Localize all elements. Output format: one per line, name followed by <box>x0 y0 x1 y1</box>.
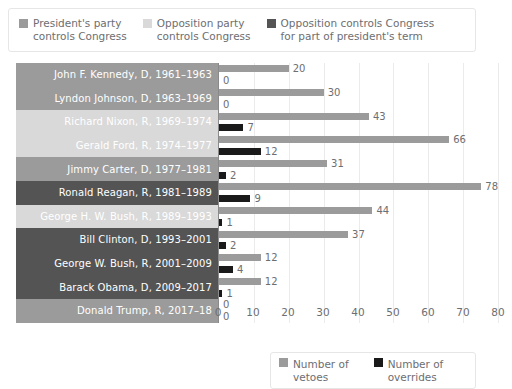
veto-bar[interactable] <box>219 278 261 285</box>
bar-group: 31 <box>219 157 498 169</box>
legend-item-label: Number of vetoes <box>293 358 362 383</box>
chart-row: George H. W. Bush, R, 1989–1993441 <box>16 205 498 229</box>
square-swatch-icon <box>374 358 383 367</box>
bar-group: 20 <box>219 63 498 75</box>
chart-row: George W. Bush, R, 2001–2009124 <box>16 252 498 276</box>
chart-row: Richard Nixon, R, 1969–1974437 <box>16 110 498 134</box>
veto-bar[interactable] <box>219 160 327 167</box>
bar-value-label: 12 <box>265 276 278 287</box>
row-plot-area: 6612 <box>218 134 498 158</box>
legend-item-label: President's party controls Congress <box>33 17 127 42</box>
congress-control-legend: President's party controls Congress Oppo… <box>8 8 476 52</box>
x-axis-tick-label: 60 <box>421 306 434 318</box>
bar-group: 7 <box>219 122 498 134</box>
row-plot-area: 200 <box>218 63 498 87</box>
x-axis-tick-label: 10 <box>246 306 259 318</box>
president-label: Bill Clinton, D, 1993–2001 <box>16 228 218 252</box>
legend-item-opposition-party: Opposition party controls Congress <box>143 17 251 42</box>
chart-rows: John F. Kennedy, D, 1961–1963200Lyndon J… <box>16 63 498 304</box>
bar-value-label: 2 <box>230 240 236 251</box>
x-axis-tick-label: 0 <box>215 306 222 318</box>
bar-value-label: 37 <box>352 229 365 240</box>
bar-value-label: 12 <box>265 146 278 157</box>
x-axis-tick-label: 20 <box>281 306 294 318</box>
bar-value-label: 0 <box>223 99 229 110</box>
veto-bar[interactable] <box>219 183 481 190</box>
veto-bar[interactable] <box>219 231 348 238</box>
veto-bar[interactable] <box>219 254 261 261</box>
square-swatch-icon <box>279 358 288 367</box>
chart-row: Bill Clinton, D, 1993–2001372 <box>16 228 498 252</box>
president-label: Gerald Ford, R, 1974–1977 <box>16 134 218 158</box>
bar-value-label: 66 <box>453 134 466 145</box>
chart-row: Jimmy Carter, D, 1977–1981312 <box>16 157 498 181</box>
row-plot-area: 121 <box>218 275 498 299</box>
x-axis-tick-label: 80 <box>491 306 504 318</box>
override-bar[interactable] <box>219 124 243 131</box>
veto-bar[interactable] <box>219 207 372 214</box>
president-label: Richard Nixon, R, 1969–1974 <box>16 110 218 134</box>
chart-row: Gerald Ford, R, 1974–19776612 <box>16 134 498 158</box>
legend-item-label: Opposition party controls Congress <box>157 17 251 42</box>
bar-value-label: 20 <box>293 63 306 74</box>
row-plot-area: 372 <box>218 228 498 252</box>
president-label: Donald Trump, R, 2017–18 <box>16 299 218 323</box>
override-bar[interactable] <box>219 148 261 155</box>
square-swatch-icon <box>143 19 152 28</box>
row-plot-area: 789 <box>218 181 498 205</box>
row-plot-area: 441 <box>218 205 498 229</box>
bar-group: 12 <box>219 146 498 158</box>
bar-value-label: 2 <box>230 170 236 181</box>
row-plot-area: 312 <box>218 157 498 181</box>
row-plot-area: 437 <box>218 110 498 134</box>
bar-value-label: 30 <box>328 87 341 98</box>
chart-row: Ronald Reagan, R, 1981–1989789 <box>16 181 498 205</box>
bar-group: 2 <box>219 240 498 252</box>
president-label: Ronald Reagan, R, 1981–1989 <box>16 181 218 205</box>
override-bar[interactable] <box>219 195 250 202</box>
bar-value-label: 1 <box>226 217 232 228</box>
legend-item-overrides: Number of overrides <box>374 358 467 383</box>
bar-value-label: 43 <box>373 111 386 122</box>
bar-value-label: 9 <box>254 193 260 204</box>
override-bar[interactable] <box>219 219 222 226</box>
bar-group: 0 <box>219 98 498 110</box>
override-bar[interactable] <box>219 172 226 179</box>
bar-group: 66 <box>219 134 498 146</box>
x-axis-tick-label: 70 <box>456 306 469 318</box>
square-swatch-icon <box>267 19 276 28</box>
bar-value-label: 44 <box>376 205 389 216</box>
bar-value-label: 31 <box>331 158 344 169</box>
bar-group: 1 <box>219 287 498 299</box>
veto-bar[interactable] <box>219 89 324 96</box>
override-bar[interactable] <box>219 266 233 273</box>
bar-group: 2 <box>219 169 498 181</box>
veto-bar[interactable] <box>219 136 449 143</box>
veto-bar[interactable] <box>219 65 289 72</box>
row-plot-area: 124 <box>218 252 498 276</box>
veto-bar[interactable] <box>219 113 369 120</box>
series-legend: Number of vetoes Number of overrides <box>270 352 476 389</box>
row-plot-area: 300 <box>218 87 498 111</box>
bar-group: 43 <box>219 110 498 122</box>
override-bar[interactable] <box>219 242 226 249</box>
bar-group: 30 <box>219 87 498 99</box>
square-swatch-icon <box>19 19 28 28</box>
override-bar[interactable] <box>219 290 222 297</box>
veto-override-bar-chart: John F. Kennedy, D, 1961–1963200Lyndon J… <box>0 58 512 326</box>
chart-row: Lyndon Johnson, D, 1963–1969300 <box>16 87 498 111</box>
x-axis: 01020304050607080 <box>218 304 498 326</box>
legend-item-opposition-part-term: Opposition controls Congress for part of… <box>267 17 435 42</box>
chart-row: John F. Kennedy, D, 1961–1963200 <box>16 63 498 87</box>
chart-row: Barack Obama, D, 2009–2017121 <box>16 275 498 299</box>
bar-group: 37 <box>219 228 498 240</box>
bar-group: 44 <box>219 205 498 217</box>
bar-value-label: 4 <box>237 264 243 275</box>
bar-group: 9 <box>219 193 498 205</box>
bar-group: 78 <box>219 181 498 193</box>
x-axis-tick-label: 30 <box>316 306 329 318</box>
president-label: George H. W. Bush, R, 1989–1993 <box>16 205 218 229</box>
legend-item-vetoes: Number of vetoes <box>279 358 362 383</box>
legend-item-president-party: President's party controls Congress <box>19 17 127 42</box>
x-axis-tick-label: 50 <box>386 306 399 318</box>
